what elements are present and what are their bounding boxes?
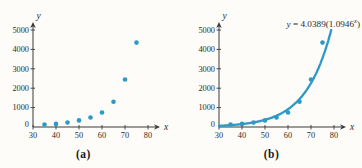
fitted-exponential-curve	[219, 30, 331, 126]
panel-a-caption: (a)	[0, 148, 181, 160]
x-tick-label: 30	[215, 131, 223, 140]
y-tick-label: 5000	[12, 26, 29, 35]
data-point	[54, 122, 59, 127]
x-tick-label: 50	[261, 131, 269, 140]
data-point	[134, 40, 139, 45]
data-point	[320, 40, 325, 45]
y-tick-label: 2000	[198, 84, 215, 93]
y-tick-label: 3000	[198, 65, 215, 74]
panel-b: 304050607080010002000300040005000xy y = …	[181, 0, 362, 168]
x-tick-label: 80	[330, 131, 338, 140]
x-tick-label: 70	[307, 131, 315, 140]
equation-equals: =	[291, 19, 301, 29]
data-point	[77, 118, 82, 123]
y-tick-label: 1000	[198, 103, 215, 112]
y-tick-label: 5000	[198, 26, 215, 35]
y-tick-label: 4000	[198, 45, 215, 54]
y-tick-label: 1000	[12, 103, 29, 112]
data-point	[65, 120, 70, 125]
figure: 304050607080010002000300040005000xy (a) …	[0, 0, 362, 168]
data-point	[100, 110, 105, 115]
x-tick-label: 40	[238, 131, 246, 140]
y-tick-label: 4000	[12, 45, 29, 54]
y-tick-label: 0	[25, 120, 29, 129]
data-point	[111, 100, 116, 105]
y-axis-label: y	[222, 11, 228, 21]
data-point	[88, 115, 93, 120]
x-tick-label: 80	[144, 131, 152, 140]
panel-a: 304050607080010002000300040005000xy (a)	[0, 0, 181, 168]
x-axis-label: x	[163, 122, 169, 132]
panel-b-caption: (b)	[181, 148, 362, 160]
x-tick-label: 50	[75, 131, 83, 140]
y-tick-label: 3000	[12, 65, 29, 74]
y-tick-label: 0	[211, 120, 215, 129]
y-tick-label: 2000	[12, 84, 29, 93]
y-axis-label: y	[36, 11, 42, 21]
data-point	[123, 77, 128, 82]
x-tick-label: 40	[52, 131, 60, 140]
data-point	[42, 122, 47, 127]
scatter-plot-a: 304050607080010002000300040005000xy	[0, 0, 181, 168]
x-tick-label: 70	[121, 131, 129, 140]
x-tick-label: 60	[284, 131, 292, 140]
x-tick-label: 60	[98, 131, 106, 140]
curve-equation-label: y = 4.0389(1.0946x)	[287, 19, 360, 29]
x-axis-label: x	[349, 122, 355, 132]
x-tick-label: 30	[29, 131, 37, 140]
equation-close-paren: )	[357, 19, 360, 29]
equation-coefficient: 4.0389(1.0946	[300, 19, 354, 29]
